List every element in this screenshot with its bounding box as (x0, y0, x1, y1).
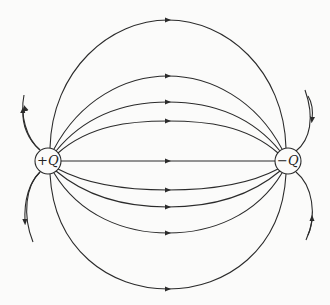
field-line-upper-4 (50, 20, 168, 148)
positive-charge-label: +Q (37, 154, 59, 168)
field-line-outer-left-top (23, 95, 40, 150)
field-line-outer-right-top (296, 90, 310, 151)
field-lines-diagram: +Q −Q (0, 0, 330, 305)
field-line-upper-1 (58, 107, 168, 153)
negative-charge-label: −Q (277, 154, 299, 168)
field-line-outer-left-bottom (27, 172, 40, 242)
field-line-upper-3 (54, 76, 168, 149)
field-line-lower-1 (58, 169, 168, 190)
field-line-lower-2 (56, 171, 168, 207)
